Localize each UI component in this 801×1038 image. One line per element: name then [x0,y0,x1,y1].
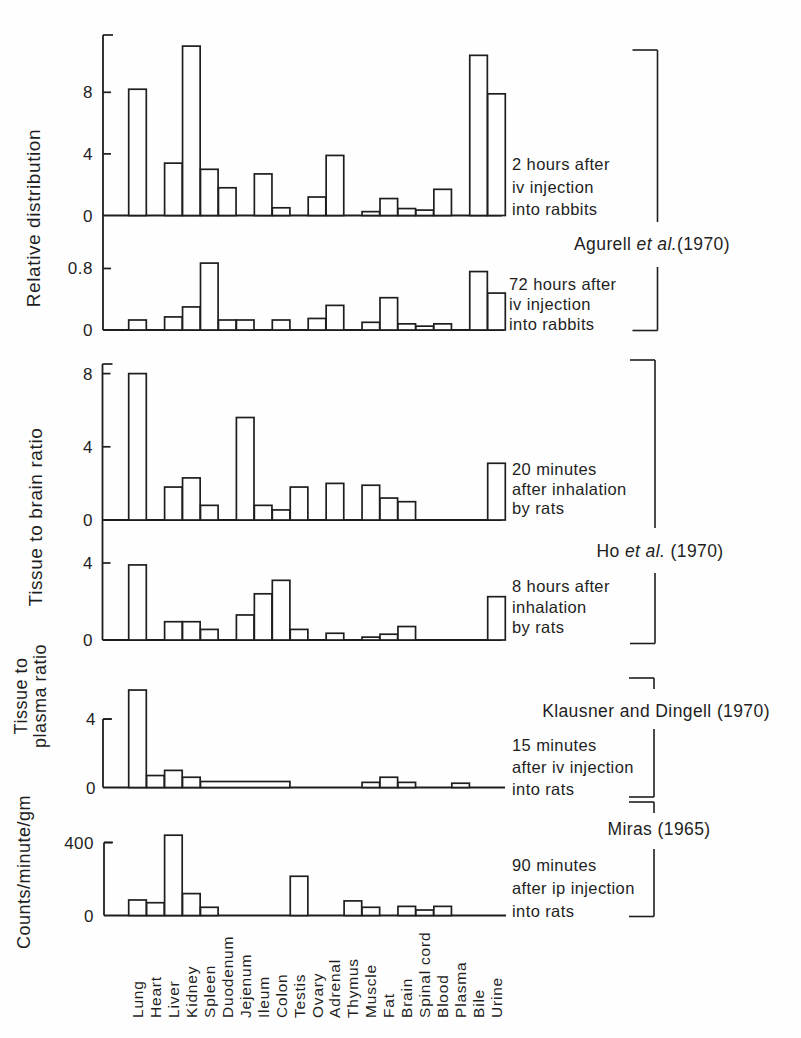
bar-p5-plasma [452,783,470,787]
caption-p5-line-3: into rats [512,780,574,798]
bar-p1-muscle [362,212,380,216]
category-label-kidney: Kidney [183,966,200,1018]
y-tick-label-p3-4: 4 [83,438,93,457]
caption-p1-line-2: iv injection [512,178,594,196]
bar-p6-muscle [362,907,380,915]
bar-p1-ovary [308,197,326,215]
caption-p2-line-3: into rabbits [509,315,595,333]
y-tick-label-p4-4: 4 [83,554,93,573]
bar-p6-lung [129,900,147,916]
category-label-ileum: Ileum [255,976,272,1018]
caption-p4-line-3: by rats [512,618,564,636]
bar-p1-urine [488,94,506,216]
category-label-muscle: Muscle [362,964,379,1018]
bar-p4-colon [272,580,290,640]
bar-p2-liver [165,317,183,330]
bar-p3-adrenal [326,483,344,520]
y-tick-label-p2-0: 0 [83,321,93,340]
bar-p5-muscle [362,782,380,787]
category-label-fat: Fat [380,993,397,1018]
category-label-plasma: Plasma [452,962,469,1018]
row-label-tissue-to: Tissue to [11,658,31,735]
bar-p3-ileum [254,505,272,520]
category-label-urine: Urine [488,977,505,1018]
bar-p2-blood [434,324,452,330]
bar-p1-ileum [254,174,272,216]
category-label-liver: Liver [165,980,182,1018]
bar-p2-urine [488,293,506,330]
bar-p5-spleen-to-colon [201,782,290,788]
bar-p4-liver [165,622,183,640]
category-label-spleen: Spleen [201,965,218,1018]
caption-p3-line-1: 20 minutes [512,460,597,478]
bar-p1-liver [165,163,183,215]
bar-p5-kidney [183,777,201,787]
y-tick-label-p1-8: 8 [83,83,93,102]
bar-p2-muscle [362,322,380,330]
bar-p6-heart [147,903,165,916]
y-tick-label-p3-8: 8 [83,365,93,384]
bar-p4-fat [380,634,398,640]
caption-p1-line-3: into rabbits [512,200,598,218]
bar-p1-spleen [201,169,219,215]
bar-p3-fat [380,498,398,520]
row-label-tissue-to-brain-ratio: Tissue to brain ratio [25,428,46,607]
row-label-plasma-ratio: plasma ratio [30,644,50,748]
bar-p1-lung [129,89,147,215]
caption-p6-line-3: into rats [512,902,574,920]
category-label-ovary: Ovary [309,973,326,1018]
bar-p3-kidney [183,478,201,520]
caption-p3-line-3: by rats [512,499,564,517]
bar-p6-spinal-cord [416,910,434,915]
bar-p6-kidney [183,894,201,916]
category-label-brain: Brain [398,978,415,1018]
y-tick-label-p1-0: 0 [83,207,93,226]
tissue-distribution-chart: 0482 hours afteriv injectioninto rabbits… [0,0,801,1038]
bar-p6-liver [165,835,183,915]
bar-p4-ileum [254,594,272,640]
bar-p2-bile [470,272,488,330]
bar-p3-colon [272,510,290,520]
bar-p5-liver [165,770,183,787]
category-label-testis: Testis [291,974,308,1018]
citation-klausner: Klausner and Dingell (1970) [542,701,770,721]
bar-p3-urine [488,463,506,520]
bar-p2-brain [398,324,416,330]
bar-p4-kidney [183,622,201,640]
bar-p3-jejenum [236,418,254,520]
category-label-heart: Heart [147,976,164,1018]
bar-p1-spinal-cord [416,210,434,215]
bar-p1-kidney [183,46,201,215]
category-label-spinal-cord: Spinal cord [416,932,433,1018]
bar-p2-ovary [308,318,326,330]
bar-p1-blood [434,189,452,215]
bar-p2-lung [129,320,147,330]
y-tick-label-p5-0: 0 [86,779,96,798]
bar-p5-heart [147,776,165,788]
bar-p5-lung [129,690,147,787]
bar-p3-liver [165,487,183,520]
figure-page: 0482 hours afteriv injectioninto rabbits… [0,0,801,1038]
y-tick-label-p6-0: 0 [84,907,94,926]
bar-p4-brain [398,627,416,640]
bar-p4-lung [129,565,147,640]
bar-p2-duodenum [218,320,236,330]
caption-p5-line-2: after iv injection [512,758,634,776]
bar-p1-colon [272,208,290,216]
category-label-jejenum: Jejenum [237,954,254,1018]
bar-p1-brain [398,209,416,216]
y-tick-label-p5-4: 4 [86,710,96,729]
category-label-colon: Colon [273,974,290,1019]
bar-p3-brain [398,502,416,520]
category-label-adrenal: Adrenal [326,959,343,1018]
caption-p3-line-2: after inhalation [512,480,627,498]
bar-p1-bile [470,55,488,215]
bar-p2-spleen [201,263,219,330]
bar-p4-muscle [362,637,380,640]
bar-p6-testis [290,876,308,915]
bar-p2-jejenum [236,320,254,330]
citation-ho: Ho et al. (1970) [596,541,723,561]
y-tick-label-p6-400: 400 [64,834,94,853]
y-tick-label-p4-0: 0 [83,631,93,650]
bar-p6-thymus [344,901,362,916]
